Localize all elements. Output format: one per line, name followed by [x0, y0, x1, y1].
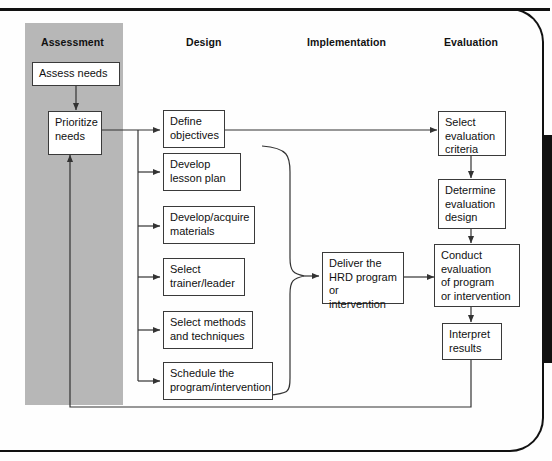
node-define-objectives[interactable]: Defineobjectives [163, 110, 225, 148]
node-develop-acquire-materials[interactable]: Develop/acquirematerials [163, 206, 255, 244]
node-conduct-evaluation[interactable]: Conductevaluationof programor interventi… [434, 244, 520, 307]
node-interpret-results[interactable]: Interpretresults [442, 323, 502, 360]
node-select-methods-techniques[interactable]: Select methodsand techniques [163, 311, 253, 349]
node-label: Select methodsand techniques [170, 316, 246, 342]
node-label: Interpretresults [449, 328, 490, 354]
node-label: Developlesson plan [170, 158, 226, 184]
node-label: Determineevaluationdesign [445, 184, 496, 223]
node-label: Selecttrainer/leader [170, 263, 235, 289]
node-prioritize-needs[interactable]: Prioritizeneeds [48, 111, 102, 155]
node-develop-lesson-plan[interactable]: Developlesson plan [163, 153, 241, 191]
node-determine-evaluation-design[interactable]: Determineevaluationdesign [438, 179, 506, 229]
node-label: Prioritizeneeds [55, 116, 98, 142]
node-select-evaluation-criteria[interactable]: Selectevaluationcriteria [438, 111, 506, 156]
node-select-trainer-leader[interactable]: Selecttrainer/leader [163, 258, 245, 296]
node-label: Conductevaluationof programor interventi… [441, 249, 511, 302]
node-label: Defineobjectives [170, 115, 219, 141]
node-label: Assess needs [39, 67, 107, 81]
node-deliver-hrd-program[interactable]: Deliver theHRD programor intervention [322, 252, 404, 304]
node-assess-needs[interactable]: Assess needs [32, 62, 120, 86]
node-label: Develop/acquirematerials [170, 211, 250, 237]
node-label: Schedule theprogram/intervention [170, 367, 271, 393]
node-label: Deliver theHRD programor intervention [329, 257, 397, 310]
node-schedule-program[interactable]: Schedule theprogram/intervention [163, 362, 273, 400]
node-label: Selectevaluationcriteria [445, 116, 495, 155]
